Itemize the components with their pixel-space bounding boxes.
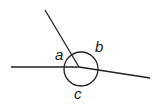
label-c: c bbox=[74, 85, 82, 102]
right-ray bbox=[79, 67, 150, 78]
label-b: b bbox=[95, 38, 103, 55]
label-a: a bbox=[55, 46, 63, 63]
angle-diagram: a b c bbox=[0, 0, 158, 107]
